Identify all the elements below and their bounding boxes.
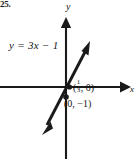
figure-container: 25. y = 3x − 1 y x (13, 0) (0, −1) [0, 0, 138, 159]
y-axis-arrowhead-icon [61, 17, 71, 28]
x-intercept-point [67, 84, 72, 89]
coordinate-graph [0, 0, 138, 159]
y-axis-label: y [66, 2, 70, 12]
y-intercept-label: (0, −1) [64, 99, 91, 109]
x-intercept-label: (13, 0) [73, 79, 94, 94]
equation-label: y = 3x − 1 [9, 40, 59, 51]
x-intercept-suffix: , 0) [81, 82, 94, 93]
x-axis-label: x [130, 85, 134, 94]
